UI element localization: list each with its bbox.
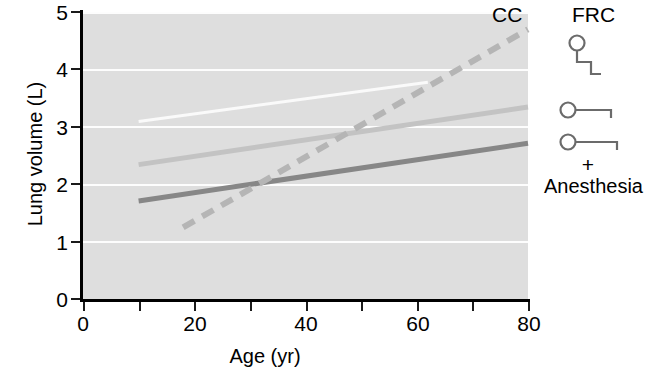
legend-anesthesia-label: Anesthesia bbox=[533, 176, 654, 196]
y-tick-label-5: 5 bbox=[42, 2, 68, 23]
frc-upright-marker bbox=[570, 36, 602, 75]
series-container bbox=[83, 12, 528, 300]
x-tick-20 bbox=[194, 302, 196, 311]
y-tick-1 bbox=[71, 241, 80, 243]
y-tick-3 bbox=[71, 126, 80, 128]
x-axis-line bbox=[80, 299, 530, 302]
x-tick-70 bbox=[472, 302, 474, 311]
x-tick-80 bbox=[528, 302, 530, 311]
y-tick-label-1: 1 bbox=[42, 232, 68, 253]
y-tick-label-0: 0 bbox=[42, 289, 68, 310]
y-tick-0 bbox=[71, 298, 80, 300]
series-line bbox=[139, 143, 528, 201]
x-tick-label-80: 80 bbox=[506, 313, 552, 334]
x-tick-50 bbox=[361, 302, 363, 311]
legend-plus-sign: + bbox=[533, 154, 643, 175]
frc-supine-marker bbox=[561, 103, 612, 119]
x-tick-label-20: 20 bbox=[172, 313, 218, 334]
legend: FRC + Anesthesia bbox=[533, 0, 654, 200]
x-tick-label-0: 0 bbox=[60, 313, 106, 334]
chart-figure: 5 4 3 2 1 0 0 20 40 60 80 Age (yr) Lung … bbox=[0, 0, 654, 379]
series-line bbox=[183, 29, 528, 227]
y-axis-title: Lung volume (L) bbox=[25, 34, 45, 274]
plot-area bbox=[83, 12, 528, 300]
frc-anesthesia-marker bbox=[561, 135, 618, 151]
y-tick-label-4: 4 bbox=[42, 59, 68, 80]
x-axis-title: Age (yr) bbox=[0, 346, 530, 366]
y-tick-4 bbox=[71, 68, 80, 70]
y-tick-2 bbox=[71, 183, 80, 185]
x-tick-30 bbox=[250, 302, 252, 311]
y-tick-5 bbox=[71, 11, 80, 13]
x-tick-60 bbox=[417, 302, 419, 311]
series-line bbox=[139, 82, 428, 121]
x-tick-10 bbox=[139, 302, 141, 311]
x-tick-label-40: 40 bbox=[283, 313, 329, 334]
y-axis-line bbox=[80, 10, 83, 302]
x-tick-0 bbox=[83, 302, 85, 311]
x-tick-40 bbox=[306, 302, 308, 311]
x-tick-label-60: 60 bbox=[395, 313, 441, 334]
cc-annotation-label: CC bbox=[492, 4, 522, 25]
series-line bbox=[139, 107, 528, 165]
